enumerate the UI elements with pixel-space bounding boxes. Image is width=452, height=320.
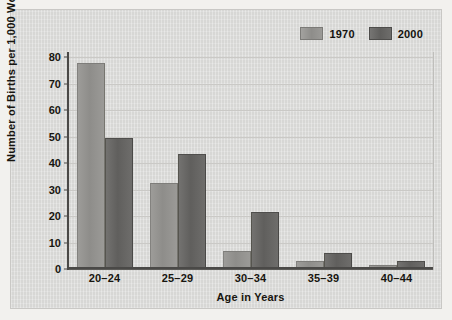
x-tick-label: 20–24 (68, 272, 141, 284)
y-axis-title: Number of Births per 1,000 Women (5, 0, 17, 162)
legend-item-2000: 2000 (369, 27, 423, 40)
y-tick-label: 30 (49, 184, 61, 196)
y-tick-label: 50 (49, 131, 61, 143)
y-tick-label: 0 (55, 263, 61, 275)
plot-right-border (433, 52, 434, 270)
bar-group (360, 57, 433, 269)
bar-1970-20-24[interactable] (77, 63, 105, 269)
chart-panel: 1970 2000 Number of Births per 1,000 Wom… (10, 9, 442, 309)
chart-figure: 1970 2000 Number of Births per 1,000 Wom… (0, 0, 452, 320)
bar-2000-25-29[interactable] (178, 154, 206, 269)
bar-groups (68, 57, 433, 269)
legend-swatch-2000 (369, 27, 392, 40)
gridline (68, 269, 433, 270)
y-tick-label: 40 (49, 157, 61, 169)
plot-area: 01020304050607080 (68, 57, 433, 269)
y-tick-label: 70 (49, 78, 61, 90)
bar-2000-30-34[interactable] (251, 212, 279, 269)
y-tick-label: 60 (49, 104, 61, 116)
legend-swatch-1970 (300, 27, 323, 40)
x-axis-line (67, 267, 433, 269)
legend-label-2000: 2000 (398, 28, 423, 40)
y-tick-label: 10 (49, 237, 61, 249)
bar-1970-25-29[interactable] (150, 183, 178, 269)
x-tick-label: 25–29 (141, 272, 214, 284)
bar-2000-20-24[interactable] (105, 138, 133, 269)
x-tick-label: 30–34 (214, 272, 287, 284)
x-axis-tick-labels: 20–2425–2930–3435–3940–44 (68, 272, 433, 284)
x-tick-label: 35–39 (287, 272, 360, 284)
bar-group (287, 57, 360, 269)
x-tick-label: 40–44 (360, 272, 433, 284)
y-tick-label: 20 (49, 210, 61, 222)
y-tick-label: 80 (49, 51, 61, 63)
bar-group (141, 57, 214, 269)
chart-legend: 1970 2000 (300, 27, 423, 40)
x-axis-title: Age in Years (68, 291, 433, 303)
bar-group (214, 57, 287, 269)
legend-label-1970: 1970 (329, 28, 354, 40)
bar-group (68, 57, 141, 269)
legend-item-1970: 1970 (300, 27, 354, 40)
